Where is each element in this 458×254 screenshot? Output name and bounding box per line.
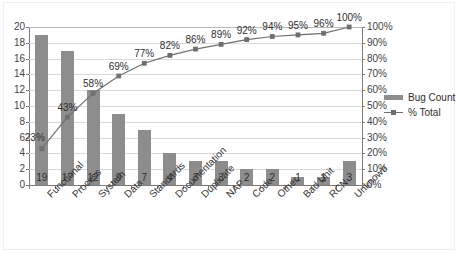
left-axis-tick-label: 12	[14, 85, 29, 95]
line-marker[interactable]	[39, 146, 44, 151]
right-axis-tick-label: 90%	[362, 38, 387, 48]
chart-legend: Bug Count % Total	[384, 90, 458, 120]
line-marker[interactable]	[270, 34, 275, 39]
left-axis-tick-label: 2	[19, 164, 29, 174]
right-axis-tick-label: 20%	[362, 148, 387, 158]
legend-line-marker-icon	[384, 109, 403, 116]
left-axis-tick-label: 18	[14, 38, 29, 48]
percent-label: 58%	[76, 79, 110, 89]
left-axis-tick-label: 16	[14, 54, 29, 64]
line-marker[interactable]	[168, 53, 173, 58]
line-marker[interactable]	[91, 91, 96, 96]
line-marker[interactable]	[65, 115, 70, 120]
pareto-chart: 02468101214161820 0%10%20%30%40%50%60%70…	[0, 0, 458, 254]
right-axis-tick-label: 80%	[362, 54, 387, 64]
category-tick	[29, 185, 30, 189]
line-marker[interactable]	[116, 74, 121, 79]
legend-label-percent-total: % Total	[408, 107, 441, 118]
percent-label: 43%	[50, 103, 84, 113]
line-marker[interactable]	[244, 37, 249, 42]
right-axis-tick-label: 70%	[362, 69, 387, 79]
line-marker[interactable]	[321, 31, 326, 36]
left-axis-tick-label: 14	[14, 69, 29, 79]
legend-item-percent-total[interactable]: % Total	[384, 105, 458, 120]
left-axis-tick-label: 0	[19, 180, 29, 190]
legend-item-bug-count[interactable]: Bug Count	[384, 90, 458, 105]
percent-label: 23%	[18, 133, 52, 143]
legend-bar-swatch-icon	[384, 95, 403, 100]
line-marker[interactable]	[347, 25, 352, 30]
line-marker[interactable]	[142, 61, 147, 66]
line-marker[interactable]	[193, 47, 198, 52]
percent-label: 100%	[332, 13, 366, 23]
right-axis-tick-label: 30%	[362, 133, 387, 143]
left-axis-tick-label: 4	[19, 148, 29, 158]
percent-label: 69%	[102, 62, 136, 72]
left-axis-tick-label: 20	[14, 22, 29, 32]
left-axis-tick-label: 8	[19, 117, 29, 127]
left-axis-tick-label: 10	[14, 101, 29, 111]
line-marker[interactable]	[296, 33, 301, 38]
line-marker[interactable]	[219, 42, 224, 47]
right-axis-tick-label: 100%	[362, 22, 393, 32]
legend-label-bug-count: Bug Count	[408, 92, 455, 103]
